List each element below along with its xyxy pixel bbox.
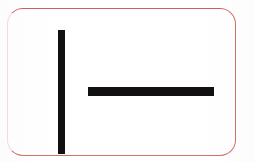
image-canvas (0, 0, 255, 162)
vertical-stroke (58, 30, 65, 154)
horizontal-stroke (88, 87, 214, 96)
rounded-rectangle-card (7, 8, 236, 156)
